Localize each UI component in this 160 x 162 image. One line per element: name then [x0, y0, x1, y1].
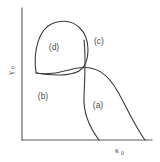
phase-diagram-canvas: (a) (b) (c) (d) γ 0 κ 0 — [0, 0, 160, 162]
loop-boundary-d-curve — [35, 21, 88, 75]
region-label-d: (d) — [49, 42, 60, 52]
s-curve-c-boundary-curve — [36, 67, 145, 140]
x-axis-label-symbol: κ — [115, 146, 119, 155]
x-axis-label-group: κ 0 — [115, 146, 124, 156]
steep-curve-a-b-boundary-curve — [84, 40, 99, 140]
region-label-c: (c) — [94, 36, 104, 46]
y-axis-label-symbol: γ — [6, 71, 15, 76]
region-label-a: (a) — [93, 100, 104, 110]
region-label-b: (b) — [38, 91, 49, 101]
x-axis-label-subscript: 0 — [121, 150, 124, 156]
y-axis-label-subscript: 0 — [10, 66, 16, 69]
phase-diagram-figure: (a) (b) (c) (d) γ 0 κ 0 — [0, 0, 160, 162]
y-axis-label-group: γ 0 — [6, 66, 16, 76]
